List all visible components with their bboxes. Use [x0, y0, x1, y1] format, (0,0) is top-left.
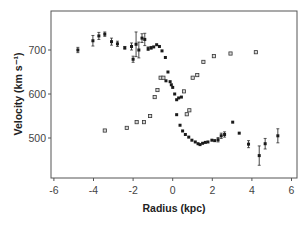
open-data-point — [191, 76, 194, 79]
x-tick-label: -4 — [89, 184, 98, 196]
filled-data-point — [206, 140, 209, 143]
y-axis-title: Velocity (km s⁻¹) — [12, 52, 24, 135]
filled-data-point — [173, 93, 176, 96]
open-data-point — [182, 90, 185, 93]
filled-square-series — [76, 32, 279, 165]
filled-data-point — [103, 33, 106, 36]
open-data-point — [125, 126, 128, 129]
filled-data-point — [170, 83, 173, 86]
filled-data-point — [76, 49, 79, 52]
filled-data-point — [190, 139, 193, 142]
filled-data-point — [258, 154, 261, 157]
x-axis-ticks: -6-4-20246 — [49, 178, 294, 196]
open-data-point — [149, 114, 152, 117]
open-data-point — [135, 121, 138, 124]
open-data-point — [202, 60, 205, 63]
x-tick-label: 0 — [170, 184, 176, 196]
open-square-series — [103, 51, 257, 133]
y-tick-label: 600 — [28, 88, 46, 100]
x-axis-title: Radius (kpc) — [142, 202, 205, 214]
filled-data-point — [180, 96, 183, 99]
filled-data-point — [213, 139, 216, 142]
filled-data-point — [276, 134, 279, 137]
filled-data-point — [135, 43, 138, 46]
filled-data-point — [179, 124, 182, 127]
filled-data-point — [238, 132, 241, 135]
filled-data-point — [223, 133, 226, 136]
filled-data-point — [164, 56, 167, 59]
filled-data-point — [187, 136, 190, 139]
filled-data-point — [231, 121, 234, 124]
open-data-point — [153, 95, 156, 98]
open-data-point — [254, 51, 257, 54]
filled-data-point — [141, 37, 144, 40]
filled-data-point — [116, 42, 119, 45]
filled-data-point — [201, 142, 204, 145]
x-tick-label: 4 — [249, 184, 255, 196]
filled-data-point — [161, 49, 164, 52]
filled-data-point — [132, 58, 135, 61]
filled-data-point — [130, 45, 133, 48]
y-axis-ticks: 500600700 — [28, 44, 51, 144]
filled-data-point — [194, 140, 197, 143]
filled-data-point — [97, 34, 100, 37]
y-tick-label: 500 — [28, 132, 46, 144]
filled-data-point — [171, 86, 174, 89]
filled-data-point — [199, 143, 202, 146]
open-data-point — [188, 109, 191, 112]
open-data-point — [212, 55, 215, 58]
filled-data-point — [147, 47, 150, 50]
filled-data-point — [137, 49, 140, 52]
filled-data-point — [152, 45, 155, 48]
filled-data-point — [175, 113, 178, 116]
filled-data-point — [143, 38, 146, 41]
velocity-radius-chart: -6-4-20246 500600700 Radius (kpc) Veloci… — [0, 0, 307, 225]
open-data-point — [156, 88, 159, 91]
filled-data-point — [91, 39, 94, 42]
x-tick-label: -2 — [128, 184, 137, 196]
open-data-point — [229, 52, 232, 55]
filled-data-point — [210, 139, 213, 142]
filled-data-point — [220, 134, 223, 137]
x-tick-label: 6 — [289, 184, 295, 196]
filled-data-point — [204, 141, 207, 144]
filled-data-point — [247, 143, 250, 146]
filled-data-point — [169, 80, 172, 83]
filled-data-point — [264, 142, 267, 145]
y-tick-label: 700 — [28, 44, 46, 56]
filled-data-point — [164, 79, 167, 82]
filled-data-point — [184, 133, 187, 136]
open-data-point — [103, 129, 106, 132]
x-tick-label: 2 — [209, 184, 215, 196]
open-data-point — [162, 76, 165, 79]
open-data-point — [142, 121, 145, 124]
filled-data-point — [123, 46, 126, 49]
filled-data-point — [177, 96, 180, 99]
filled-data-point — [150, 46, 153, 49]
x-tick-label: -6 — [49, 184, 58, 196]
open-data-point — [185, 113, 188, 116]
filled-data-point — [217, 138, 220, 141]
filled-data-point — [155, 43, 158, 46]
filled-data-point — [158, 45, 161, 48]
filled-data-point — [181, 129, 184, 132]
filled-data-point — [110, 40, 113, 43]
filled-data-point — [166, 71, 169, 74]
open-data-point — [196, 73, 199, 76]
